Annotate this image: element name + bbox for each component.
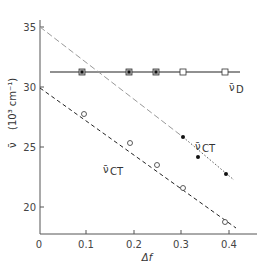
x-tick-0.2: 0.2	[126, 239, 142, 250]
y-tick-20: 20	[23, 202, 36, 213]
y-tick-30: 30	[23, 82, 36, 93]
x-tick-0: 0	[36, 239, 42, 250]
annotation-nu-ct-lower: ν̄ CT	[103, 164, 124, 177]
svg-text:CT: CT	[202, 143, 216, 154]
x-tick-0.4: 0.4	[221, 239, 237, 250]
y-ticks: 35 30 25 20	[23, 22, 44, 213]
x-axis-label: Δf	[141, 252, 154, 263]
x-tick-0.3: 0.3	[173, 239, 189, 250]
x-tick-0.1: 0.1	[78, 239, 94, 250]
svg-text:(10³ cm⁻¹): (10³ cm⁻¹)	[7, 78, 18, 130]
annotation-nu-ct-upper: ν̄ CT	[195, 141, 216, 154]
chart: 35 30 25 20 0 0.1 0.2 0.3 0.4 Δf ν̄ (10³…	[0, 0, 267, 271]
svg-text:ν̄: ν̄	[7, 142, 18, 148]
svg-text:D: D	[236, 84, 244, 95]
svg-text:CT: CT	[110, 166, 124, 177]
series-nu-d	[50, 69, 240, 75]
series-nu-ct-open	[40, 88, 236, 228]
x-ticks: 0 0.1 0.2 0.3 0.4	[36, 230, 237, 250]
plot-area: 35 30 25 20 0 0.1 0.2 0.3 0.4 Δf ν̄ (10³…	[0, 0, 267, 271]
annotation-nu-d: ν̄ D	[229, 82, 244, 95]
svg-text:ν̄: ν̄	[103, 164, 109, 175]
svg-text:ν̄: ν̄	[229, 82, 235, 93]
y-tick-35: 35	[23, 22, 36, 33]
svg-text:ν̄: ν̄	[195, 141, 201, 152]
y-axis-label: ν̄ (10³ cm⁻¹)	[7, 78, 18, 148]
y-tick-25: 25	[23, 142, 36, 153]
